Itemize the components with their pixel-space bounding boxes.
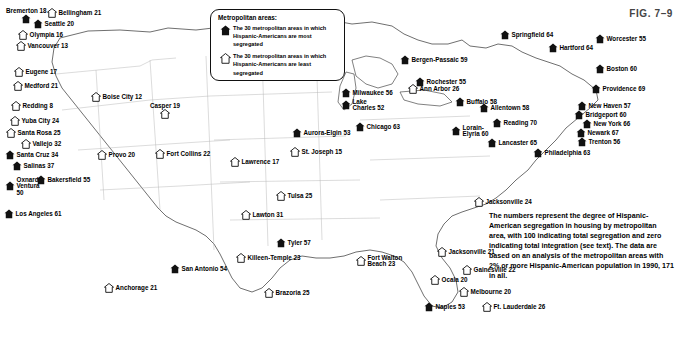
city-label: San Antonio 54 bbox=[182, 266, 228, 272]
house-icon-outline bbox=[10, 116, 20, 126]
city-marker: Milwaukee 56 bbox=[341, 88, 393, 98]
city-label: Boston 60 bbox=[607, 66, 637, 72]
city-label: Allentown 58 bbox=[491, 105, 530, 111]
city-marker: Jacksonville 24 bbox=[474, 197, 532, 207]
house-icon-outline bbox=[264, 288, 274, 298]
city-label: Anchorage 21 bbox=[116, 285, 158, 291]
city-marker: Naples 53 bbox=[424, 302, 465, 312]
city-label: Rochester 55 bbox=[427, 79, 467, 85]
house-icon-outline bbox=[430, 275, 440, 285]
city-marker: St. Joseph 15 bbox=[290, 147, 342, 157]
city-label: Los Angeles 61 bbox=[16, 211, 62, 217]
house-icon-outline bbox=[474, 197, 484, 207]
house-icon-filled bbox=[33, 19, 43, 29]
house-icon-outline bbox=[482, 302, 492, 312]
city-marker: Tulsa 25 bbox=[276, 191, 312, 201]
legend-item-least-segregated: The 30 metropolitan areas in which Hispa… bbox=[217, 52, 339, 76]
house-icon-filled bbox=[591, 84, 601, 94]
city-marker: Fort WaltonBeach 23 bbox=[356, 255, 402, 268]
city-label: Lancaster 65 bbox=[499, 140, 538, 146]
legend-title: Metropolitan areas: bbox=[218, 14, 339, 21]
house-icon-outline bbox=[91, 92, 101, 102]
house-icon-outline bbox=[290, 147, 300, 157]
city-marker: Vancouver 13 bbox=[16, 41, 68, 51]
city-marker: Hartford 64 bbox=[548, 43, 593, 53]
house-icon-filled bbox=[500, 30, 510, 40]
house-icon-filled bbox=[455, 97, 465, 107]
figure-label: FIG. 7–9 bbox=[629, 8, 673, 19]
city-marker: Killeen-Temple 23 bbox=[236, 253, 301, 263]
city-marker: Salinas 37 bbox=[12, 161, 54, 171]
city-label: Worcester 55 bbox=[607, 36, 646, 42]
city-label: Olympia 16 bbox=[30, 32, 64, 38]
city-marker: Reading 70 bbox=[492, 118, 537, 128]
city-label: Santa Cruz 34 bbox=[17, 152, 59, 158]
city-label: Vallejo 32 bbox=[33, 141, 62, 147]
house-icon-outline bbox=[13, 81, 23, 91]
house-icon-outline bbox=[104, 283, 114, 293]
map-figure: FIG. 7–9 Metropolitan areas: The 30 metr… bbox=[0, 0, 681, 341]
legend-item-most-segregated-label: The 30 metropolitan areas in which Hispa… bbox=[233, 24, 339, 48]
city-label: Jacksonville 21 bbox=[449, 249, 495, 255]
city-marker: Boise City 12 bbox=[91, 92, 142, 102]
city-marker: Trenton 56 bbox=[577, 137, 620, 147]
city-marker: Brazoria 25 bbox=[264, 288, 309, 298]
house-icon-filled bbox=[424, 302, 434, 312]
city-marker: Bakersfield 55 bbox=[36, 175, 90, 185]
city-marker: Bergen-Passaic 59 bbox=[400, 55, 468, 65]
city-label: Naples 53 bbox=[436, 304, 465, 310]
city-label: Santa Rosa 25 bbox=[18, 130, 61, 136]
city-label: Philadelphia 63 bbox=[545, 150, 591, 156]
city-label: Lorain-Elyria 60 bbox=[463, 125, 489, 138]
city-label: Eugene 17 bbox=[26, 69, 58, 75]
city-marker: Vallejo 32 bbox=[21, 139, 61, 149]
city-label: Lawrence 17 bbox=[242, 159, 280, 165]
city-marker: Provo 20 bbox=[97, 150, 135, 160]
city-marker: Lorain-Elyria 60 bbox=[451, 125, 488, 138]
city-marker: Yuba City 24 bbox=[10, 116, 59, 126]
house-icon-filled bbox=[595, 64, 605, 74]
house-icon-outline bbox=[437, 247, 447, 257]
city-label: Jacksonville 24 bbox=[486, 199, 532, 205]
house-icon-filled bbox=[548, 43, 558, 53]
house-icon-filled bbox=[492, 118, 502, 128]
house-icon-filled bbox=[292, 128, 302, 138]
city-marker: Fort Collins 22 bbox=[155, 149, 210, 159]
city-marker: Boston 60 bbox=[595, 64, 637, 74]
city-marker: Santa Cruz 34 bbox=[5, 150, 58, 160]
city-marker: Eugene 17 bbox=[14, 67, 57, 77]
explanatory-note: The numbers represent the degree of Hisp… bbox=[489, 211, 675, 281]
city-marker: Medford 21 bbox=[13, 81, 58, 91]
city-label: Bridgeport 60 bbox=[586, 112, 627, 118]
city-label: Fort WaltonBeach 23 bbox=[368, 255, 403, 268]
city-marker: Los Angeles 61 bbox=[4, 209, 61, 219]
city-label: LakeCharles 52 bbox=[353, 99, 385, 112]
city-marker: LakeCharles 52 bbox=[341, 99, 384, 112]
city-marker: Springfield 64 bbox=[500, 30, 553, 40]
city-label: Ocala 20 bbox=[442, 277, 468, 283]
house-icon-outline bbox=[276, 191, 286, 201]
city-marker: Olympia 16 bbox=[18, 30, 63, 40]
house-icon-filled bbox=[451, 126, 461, 136]
house-icon-filled bbox=[355, 122, 365, 132]
city-marker: Anchorage 21 bbox=[104, 283, 157, 293]
house-icon-outline bbox=[236, 253, 246, 263]
house-icon-outline bbox=[16, 41, 26, 51]
house-icon-filled bbox=[5, 181, 15, 191]
city-label: New York 66 bbox=[594, 121, 631, 127]
city-label: Newark 67 bbox=[588, 130, 619, 136]
city-marker: Bellingham 21 bbox=[47, 8, 101, 18]
city-label: Boise City 12 bbox=[103, 94, 143, 100]
city-marker: Gainesville 22 bbox=[462, 265, 516, 275]
city-marker: Ocala 20 bbox=[430, 275, 467, 285]
city-label: Medford 21 bbox=[25, 83, 59, 89]
city-label: Yuba City 24 bbox=[22, 118, 59, 124]
city-marker: Providence 69 bbox=[591, 84, 645, 94]
city-marker: Worcester 55 bbox=[595, 34, 646, 44]
house-icon-filled bbox=[36, 175, 46, 185]
city-label: Tyler 57 bbox=[288, 240, 311, 246]
city-marker: Seattle 20 bbox=[33, 19, 74, 29]
city-label: Providence 69 bbox=[603, 86, 646, 92]
city-marker: Melbourne 20 bbox=[459, 287, 511, 297]
house-icon-filled bbox=[21, 14, 31, 24]
